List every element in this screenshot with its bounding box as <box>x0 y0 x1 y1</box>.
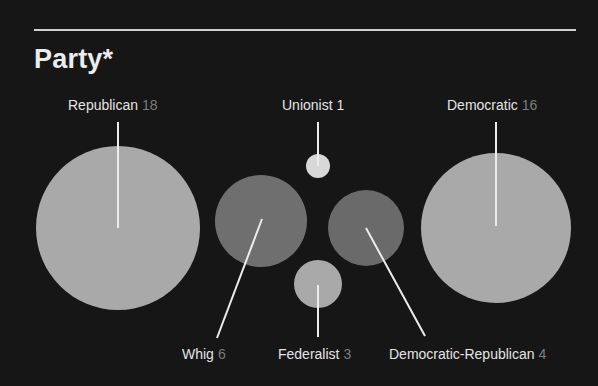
bubble-chart <box>0 0 598 386</box>
party-count: 6 <box>218 346 226 362</box>
party-name: Unionist <box>282 97 333 113</box>
party-name: Democratic-Republican <box>389 346 535 362</box>
label-republican: Republican18 <box>68 97 158 113</box>
party-count: 18 <box>142 97 158 113</box>
label-unionist: Unionist1 <box>282 97 344 113</box>
party-name: Democratic <box>447 97 518 113</box>
party-count: 4 <box>539 346 547 362</box>
party-name: Federalist <box>278 346 339 362</box>
party-count: 16 <box>522 97 538 113</box>
label-whig: Whig6 <box>182 346 226 362</box>
label-federalist: Federalist3 <box>278 346 351 362</box>
label-democratic: Democratic16 <box>447 97 537 113</box>
party-count: 1 <box>337 97 345 113</box>
label-democratic-republican: Democratic-Republican4 <box>389 346 546 362</box>
party-count: 3 <box>343 346 351 362</box>
party-name: Republican <box>68 97 138 113</box>
party-name: Whig <box>182 346 214 362</box>
